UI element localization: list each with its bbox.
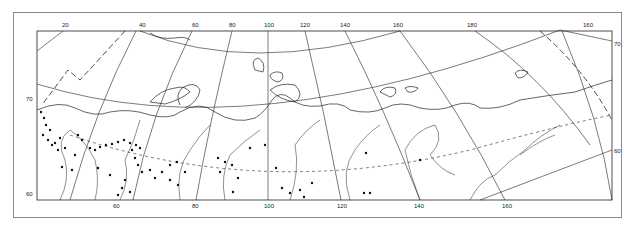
lat-label-left: 70: [26, 96, 33, 102]
meridians: [37, 31, 612, 200]
lat-label-left: 60: [26, 191, 33, 197]
lat-label-right: 70: [614, 41, 621, 47]
map-canvas: 20 40 60 80 100 120 140 160 180 160 60 8…: [0, 0, 639, 231]
bottom-longitude-labels: 60 80 100 120 140 160: [113, 203, 513, 209]
parallel-dashed: [70, 115, 612, 172]
lon-label-top: 60: [192, 22, 199, 28]
lon-label-bottom: 100: [264, 203, 275, 209]
lon-label-top: 160: [393, 22, 404, 28]
boundary-dashed-west: [42, 31, 125, 105]
coastlines: [37, 33, 612, 120]
lon-label-top: 20: [62, 22, 69, 28]
lon-label-top: 160: [583, 22, 594, 28]
top-longitude-labels: 20 40 60 80 100 120 140 160 180 160: [62, 22, 594, 28]
lat-label-right: 60: [614, 148, 621, 154]
lon-label-top: 180: [467, 22, 478, 28]
lon-label-bottom: 120: [337, 203, 348, 209]
lon-label-bottom: 160: [502, 203, 513, 209]
rivers: [60, 120, 560, 200]
lon-label-top: 140: [340, 22, 351, 28]
parallel-70: [37, 30, 612, 107]
lon-label-bottom: 80: [192, 203, 199, 209]
boundary-dashed-east: [540, 31, 612, 120]
lon-label-top: 80: [229, 22, 236, 28]
parallel-northern: [140, 31, 400, 53]
lon-label-bottom: 60: [113, 203, 120, 209]
lon-label-top: 120: [300, 22, 311, 28]
lon-label-top: 40: [139, 22, 146, 28]
lon-label-top: 100: [264, 22, 275, 28]
parallel-60: [480, 150, 612, 200]
lon-label-bottom: 140: [414, 203, 425, 209]
